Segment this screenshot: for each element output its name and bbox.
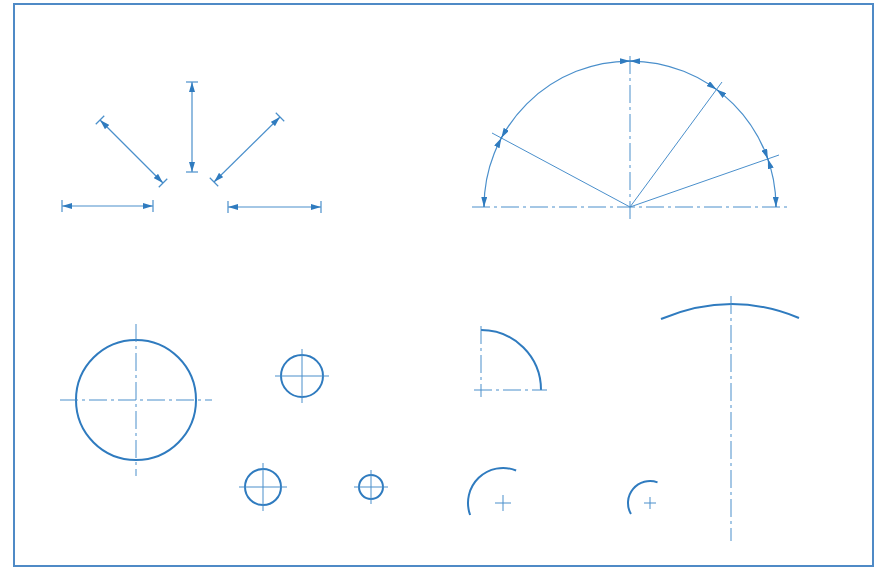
dimension-line — [100, 120, 163, 183]
arc-arrowhead — [768, 159, 770, 166]
large-radius-arc — [661, 296, 799, 541]
dimension-line — [214, 117, 280, 182]
semicircle-angular-dimension — [472, 56, 789, 220]
radial-line — [492, 133, 630, 207]
dimension-arrows-group — [62, 82, 321, 213]
partial-arcs — [468, 468, 658, 515]
arc-arrowhead — [501, 131, 505, 138]
technical-drawing-sheet — [0, 0, 884, 572]
quarter-arc-outline — [481, 330, 541, 390]
drawing-frame — [14, 4, 873, 566]
arc-arrowhead — [498, 138, 501, 145]
arc-arrowhead — [710, 85, 716, 89]
quarter-arc — [474, 326, 547, 397]
radial-line — [630, 155, 779, 207]
radial-line — [630, 82, 722, 207]
partial-arc-outline — [628, 481, 658, 514]
partial-arc-outline — [468, 468, 516, 515]
large-arc-outline — [661, 304, 799, 319]
circles-with-centerlines — [60, 324, 388, 511]
arc-arrowhead — [765, 152, 768, 159]
arc-arrowhead — [717, 89, 723, 94]
